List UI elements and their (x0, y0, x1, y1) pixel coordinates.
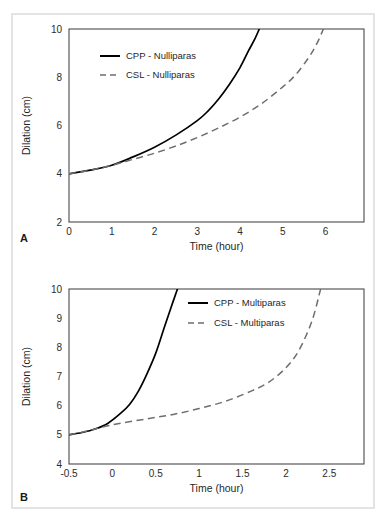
x-tick-label: 1.5 (236, 468, 250, 479)
legend-label: CSL - Multiparas (214, 317, 285, 328)
y-tick-label: 10 (51, 284, 63, 295)
x-tick-label: 0 (66, 226, 72, 237)
y-tick-label: 5 (56, 429, 62, 440)
y-tick-label: 10 (51, 24, 63, 35)
legend-label: CPP - Multiparas (214, 297, 286, 308)
panel-letter-b: B (20, 491, 28, 503)
y-tick-label: 7 (56, 371, 62, 382)
curve-dashed (69, 29, 323, 174)
y-tick-label: 8 (56, 72, 62, 83)
legend: CPP - MultiparasCSL - Multiparas (188, 297, 286, 328)
y-tick-label: 6 (56, 120, 62, 131)
x-axis-title: Time (hour) (190, 240, 244, 252)
y-tick-label: 9 (56, 313, 62, 324)
curve-solid (69, 289, 177, 435)
y-tick-label: 2 (56, 217, 62, 228)
y-axis-title: Dilation (cm) (20, 347, 32, 406)
x-tick-label: 0 (110, 468, 116, 479)
curves-group (69, 29, 323, 174)
panel-b-plot: 45678910-0.500.511.522.5Time (hour)Dilat… (0, 258, 388, 521)
x-tick-label: 1 (196, 468, 202, 479)
panel-letter-a: A (20, 232, 28, 244)
plot-frame (69, 29, 364, 222)
x-tick-label: 1 (109, 226, 115, 237)
x-tick-label: 2 (152, 226, 158, 237)
curves-group (69, 289, 321, 435)
panel-b: 45678910-0.500.511.522.5Time (hour)Dilat… (0, 258, 388, 521)
x-tick-label: 2.5 (322, 468, 336, 479)
x-tick-label: 3 (194, 226, 200, 237)
x-tick-label: 0.5 (149, 468, 163, 479)
y-tick-label: 4 (56, 168, 62, 179)
legend-label: CSL - Nulliparas (126, 69, 195, 80)
legend-label: CPP - Nulliparas (126, 50, 196, 61)
x-tick-label: -0.5 (60, 468, 78, 479)
y-tick-label: 8 (56, 342, 62, 353)
legend: CPP - NulliparasCSL - Nulliparas (100, 50, 196, 80)
panel-a-plot: 2468100123456Time (hour)Dilation (cm)CPP… (0, 0, 388, 260)
x-tick-label: 5 (280, 226, 286, 237)
y-axis-title: Dilation (cm) (20, 96, 32, 155)
x-tick-label: 6 (323, 226, 329, 237)
x-tick-label: 2 (283, 468, 289, 479)
curve-dashed (69, 289, 321, 435)
x-tick-label: 4 (237, 226, 243, 237)
panel-a: 2468100123456Time (hour)Dilation (cm)CPP… (0, 0, 388, 260)
plot-frame (69, 289, 364, 464)
figure-container: 2468100123456Time (hour)Dilation (cm)CPP… (0, 0, 388, 521)
y-tick-label: 6 (56, 400, 62, 411)
x-axis-title: Time (hour) (190, 482, 244, 494)
